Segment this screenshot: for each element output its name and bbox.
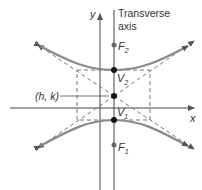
f2-label: F2 bbox=[118, 40, 129, 54]
f1-label: F1 bbox=[118, 141, 129, 155]
center-label: (h, k) bbox=[35, 90, 59, 102]
hyperbola-diagram: y x Transverse axis (h, k) F2 V2 V1 F1 bbox=[0, 0, 202, 190]
transverse-axis-label-1: Transverse bbox=[118, 7, 170, 19]
focus-f2-point bbox=[112, 43, 117, 48]
x-axis-label: x bbox=[189, 112, 196, 124]
v2-label: V2 bbox=[117, 72, 128, 86]
y-axis-label: y bbox=[89, 8, 97, 20]
transverse-axis-label-2: axis bbox=[118, 20, 137, 32]
center-point bbox=[111, 93, 117, 99]
asymptote-1b bbox=[114, 96, 194, 149]
focus-f1-point bbox=[112, 143, 117, 148]
